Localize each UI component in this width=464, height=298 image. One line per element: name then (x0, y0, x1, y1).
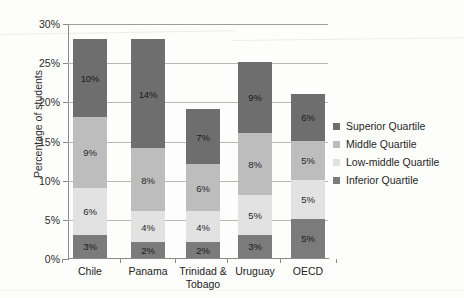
bar-segment-value: 5% (291, 233, 325, 244)
bar-segment[interactable]: 4% (131, 211, 165, 242)
bar-segment-value: 6% (73, 206, 107, 217)
bar-segment-value: 8% (131, 174, 165, 185)
bar-chile[interactable]: 3%6%9%10% (73, 39, 107, 258)
bar-segment[interactable]: 4% (186, 211, 220, 242)
bar-segment-value: 5% (291, 155, 325, 166)
bar-segment-value: 6% (291, 112, 325, 123)
bar-segment[interactable]: 2% (131, 242, 165, 258)
legend-swatch-icon (333, 123, 340, 130)
bar-segment[interactable]: 2% (186, 242, 220, 258)
gridline (68, 102, 328, 103)
y-tick-mark (63, 142, 68, 143)
legend-item[interactable]: Middle Quartile (333, 135, 463, 153)
bar-segment[interactable]: 6% (186, 164, 220, 211)
chart-legend: Superior QuartileMiddle QuartileLow-midd… (333, 117, 463, 189)
bar-segment[interactable]: 6% (291, 94, 325, 141)
bar-segment[interactable]: 9% (238, 62, 272, 133)
y-tick-mark (63, 102, 68, 103)
legend-swatch-icon (333, 141, 340, 148)
legend-label: Inferior Quartile (346, 174, 418, 186)
bar-segment-value: 9% (238, 92, 272, 103)
bar-segment[interactable]: 3% (238, 235, 272, 259)
y-tick-label: 10% (39, 175, 60, 187)
gridline (68, 24, 328, 25)
stacked-bar-chart: Percentage of students 0%5%10%15%20%25%3… (0, 0, 464, 298)
x-axis-label-line: OECD (265, 265, 351, 278)
legend-swatch-icon (333, 159, 340, 166)
y-axis-title: Percentage of students (32, 24, 44, 224)
x-tick-mark (280, 259, 281, 263)
bar-segment-value: 4% (186, 221, 220, 232)
bar-segment-value: 9% (73, 147, 107, 158)
bar-segment[interactable]: 5% (238, 195, 272, 234)
y-tick-label: 30% (39, 18, 60, 30)
bar-uruguay[interactable]: 3%5%8%9% (238, 62, 272, 258)
y-tick-mark (63, 259, 68, 260)
x-axis-label-line: Tobago (160, 278, 246, 291)
bar-segment-value: 10% (73, 72, 107, 83)
bar-segment-value: 3% (73, 241, 107, 252)
plot-area: 0%5%10%15%20%25%30%3%6%9%10%Chile2%4%8%1… (68, 24, 328, 259)
bar-segment[interactable]: 7% (186, 109, 220, 164)
x-tick-mark (336, 259, 337, 263)
y-tick-mark (63, 24, 68, 25)
x-tick-mark (227, 259, 228, 263)
y-tick-label: 25% (39, 57, 60, 69)
legend-label: Low-middle Quartile (346, 156, 439, 168)
bar-segment-value: 2% (131, 245, 165, 256)
y-tick-label: 15% (39, 136, 60, 148)
bar-oecd[interactable]: 5%5%5%6% (291, 94, 325, 258)
x-tick-mark (120, 259, 121, 263)
bar-segment-value: 14% (131, 88, 165, 99)
bar-segment-value: 2% (186, 245, 220, 256)
y-tick-label: 0% (45, 253, 60, 265)
bar-segment[interactable]: 5% (291, 141, 325, 180)
x-tick-mark (62, 259, 63, 263)
legend-item[interactable]: Low-middle Quartile (333, 153, 463, 171)
legend-label: Superior Quartile (346, 120, 425, 132)
bar-segment[interactable]: 6% (73, 188, 107, 235)
bar-segment-value: 6% (186, 182, 220, 193)
bar-segment[interactable]: 14% (131, 39, 165, 149)
legend-label: Middle Quartile (346, 138, 417, 150)
y-tick-label: 20% (39, 96, 60, 108)
bar-segment-value: 3% (238, 241, 272, 252)
x-tick-mark (175, 259, 176, 263)
x-axis-label: OECD (265, 265, 351, 278)
y-tick-mark (63, 181, 68, 182)
x-axis-line (68, 258, 329, 259)
bar-segment[interactable]: 8% (238, 133, 272, 196)
bar-segment[interactable]: 3% (73, 235, 107, 259)
bar-segment-value: 8% (238, 159, 272, 170)
y-tick-label: 5% (45, 214, 60, 226)
bar-segment[interactable]: 5% (291, 180, 325, 219)
y-tick-mark (63, 220, 68, 221)
bar-segment-value: 7% (186, 131, 220, 142)
bar-segment-value: 4% (131, 221, 165, 232)
legend-item[interactable]: Inferior Quartile (333, 171, 463, 189)
bar-segment[interactable]: 10% (73, 39, 107, 117)
legend-swatch-icon (333, 177, 340, 184)
gridline (68, 63, 328, 64)
bar-segment[interactable]: 8% (131, 148, 165, 211)
y-tick-mark (63, 63, 68, 64)
bar-segment[interactable]: 5% (291, 219, 325, 258)
bar-panama[interactable]: 2%4%8%14% (131, 39, 165, 258)
bar-segment-value: 5% (238, 209, 272, 220)
legend-item[interactable]: Superior Quartile (333, 117, 463, 135)
bar-trinidad-tobago[interactable]: 2%4%6%7% (186, 109, 220, 258)
bar-segment-value: 5% (291, 194, 325, 205)
bar-segment[interactable]: 9% (73, 117, 107, 188)
